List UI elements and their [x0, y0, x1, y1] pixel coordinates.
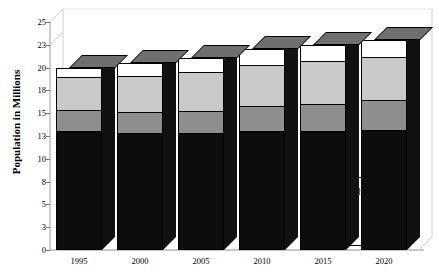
y-tick-mark — [46, 182, 50, 183]
bar-segment-hispanic — [361, 57, 407, 100]
bar-segment-hispanic — [117, 76, 163, 112]
y-tick-mark — [46, 113, 50, 114]
bar-segment-asian-other — [178, 58, 224, 72]
bar-side-face — [346, 32, 359, 250]
y-tick-mark — [46, 68, 50, 69]
bar-2010[interactable] — [239, 0, 285, 277]
bar-2020[interactable] — [361, 0, 407, 277]
bar-side-face — [407, 27, 420, 250]
bar-segment-white — [361, 130, 407, 250]
y-tick-mark — [46, 159, 50, 160]
bar-side-face — [224, 45, 237, 250]
bar-top-face — [374, 27, 433, 40]
bar-segment-white — [56, 131, 102, 250]
bar-segment-asian-other — [361, 40, 407, 56]
y-tick-mark — [46, 227, 50, 228]
bar-2015[interactable] — [300, 0, 346, 277]
bar-segment-hispanic — [239, 65, 285, 106]
bar-1995[interactable] — [56, 0, 102, 277]
plot-area — [0, 0, 439, 277]
bar-segment-white — [239, 131, 285, 250]
bar-2000[interactable] — [117, 0, 163, 277]
bar-segment-hispanic — [56, 77, 102, 110]
bar-segment-asian-other — [117, 63, 163, 76]
y-tick-mark — [46, 90, 50, 91]
bar-side-face — [285, 36, 298, 250]
bar-segment-asian-other — [300, 45, 346, 61]
bar-side-face — [102, 55, 115, 250]
bar-segment-asian-other — [56, 68, 102, 77]
bar-segment-white — [300, 131, 346, 250]
bar-segment-black — [300, 104, 346, 131]
y-tick-mark — [46, 250, 50, 251]
bar-segment-black — [178, 111, 224, 133]
bar-segment-black — [239, 106, 285, 132]
bar-segment-hispanic — [178, 72, 224, 111]
bar-segment-asian-other — [239, 49, 285, 65]
bar-segment-white — [178, 133, 224, 250]
y-tick-mark — [46, 22, 50, 23]
bar-2005[interactable] — [178, 0, 224, 277]
y-tick-mark — [46, 45, 50, 46]
bar-segment-black — [56, 110, 102, 132]
bar-segment-black — [117, 112, 163, 133]
y-tick-mark — [46, 204, 50, 205]
bar-side-face — [163, 50, 176, 250]
bar-segment-black — [361, 100, 407, 130]
bar-segment-white — [117, 133, 163, 250]
bar-segment-hispanic — [300, 61, 346, 104]
y-tick-mark — [46, 136, 50, 137]
chart-canvas: Population in Millions 03581013151820232… — [0, 0, 439, 277]
